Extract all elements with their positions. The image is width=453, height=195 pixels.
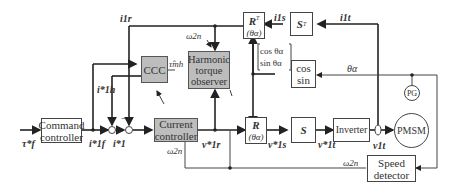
pmsm-motor: PMSM bbox=[394, 113, 429, 148]
pg-sensor: PG bbox=[404, 85, 420, 101]
minus-sign: − bbox=[121, 113, 127, 124]
omega-2n-controller-label: ω2n bbox=[167, 146, 182, 157]
rt-transform-block: RT (θα) bbox=[243, 12, 265, 39]
i1t-label: i1t bbox=[340, 12, 351, 23]
speed-detector-block: Speed detector bbox=[367, 155, 416, 182]
st-transform-block: ST bbox=[290, 12, 313, 36]
sin-theta-label: sin θα bbox=[260, 58, 282, 69]
i1s-label: i1s bbox=[274, 12, 286, 23]
inverter-block: Inverter bbox=[333, 118, 370, 142]
command-controller-block: Command controller bbox=[41, 118, 82, 143]
rt-block-label: RT bbox=[249, 12, 260, 27]
i1-star-label: i*1 bbox=[113, 138, 126, 149]
ccc-block: CCC bbox=[141, 56, 168, 83]
r-transform-block: R (θα) bbox=[245, 117, 267, 144]
s-transform-block: S bbox=[291, 117, 316, 143]
i1h-star-label: i*1h bbox=[97, 84, 115, 95]
v1t-label: v1t bbox=[373, 140, 385, 151]
i1f-star-label: i*1f bbox=[89, 138, 105, 149]
theta-alpha-label: θα bbox=[347, 63, 357, 74]
cos-theta-label: cos θα bbox=[260, 46, 283, 57]
cos-sin-block: cos sin bbox=[291, 60, 316, 88]
v1r-star-label: v*1r bbox=[202, 139, 220, 150]
tau-mh-hat-label: τ̂mh bbox=[169, 59, 183, 70]
current-controller-block: Current controller bbox=[154, 118, 198, 142]
v1s-star-label: v*1s bbox=[268, 139, 286, 150]
v1t-star-label: v*1t bbox=[318, 139, 335, 150]
rt-block-arg: (θα) bbox=[246, 27, 261, 39]
harmonic-torque-observer-block: Harmonic torque observer bbox=[188, 51, 230, 89]
i1r-label: i1r bbox=[120, 13, 132, 24]
omega-2n-speed-label: ω2n bbox=[343, 158, 358, 169]
omega-2n-observer-label: ω2n bbox=[186, 31, 201, 42]
tau-f-star-label: τ*f bbox=[22, 138, 35, 149]
